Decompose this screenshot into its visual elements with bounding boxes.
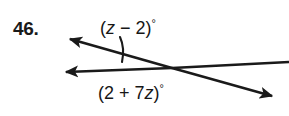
ray-lower-left xyxy=(66,68,172,72)
ray-upper-left xyxy=(70,39,172,68)
angle-arc-marker xyxy=(120,37,123,62)
angle-label-top-operator: − 2) xyxy=(115,18,152,38)
angle-label-top-variable: z xyxy=(106,18,115,38)
ray-lower-right xyxy=(172,68,272,96)
degree-symbol-icon-bottom: ° xyxy=(160,82,164,94)
angle-label-bottom-lead: (2 + 7 xyxy=(98,83,145,103)
angle-label-bottom: (2 + 7z)° xyxy=(98,84,164,102)
angle-label-top: (z − 2)° xyxy=(100,19,156,37)
worksheet-problem-figure: 46. (z − 2)° (2 + 7z)° xyxy=(0,0,289,116)
ray-right-continuation xyxy=(172,62,289,68)
angle-label-bottom-variable: z xyxy=(145,83,154,103)
degree-symbol-icon-top: ° xyxy=(152,17,156,29)
